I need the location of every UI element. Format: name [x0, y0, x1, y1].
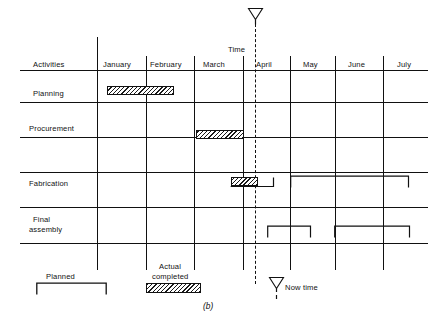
legend-label-actual-line2: completed	[152, 272, 188, 281]
header-month-may: May	[303, 60, 318, 69]
header-month-april: April	[256, 60, 272, 69]
grid-line-row-1	[20, 102, 428, 103]
header-month-february: February	[150, 60, 182, 69]
bracket-final-assembly-planned-2	[334, 225, 411, 239]
bracket-final-assembly-planned-1	[267, 225, 312, 239]
header-month-june: June	[348, 60, 365, 69]
header-month-july: July	[397, 60, 411, 69]
row-label-final-assembly-line1: Final	[33, 215, 50, 224]
bar-procurement-completed	[196, 130, 244, 139]
now-time-marker-top-icon	[247, 7, 264, 25]
grid-col-mar-apr	[243, 56, 244, 270]
header-activities: Activities	[33, 60, 64, 69]
figure-caption: (b)	[203, 301, 213, 311]
legend-label-actual-line1: Actual	[159, 262, 181, 271]
grid-col-feb-mar	[194, 56, 195, 270]
bar-planning-completed	[107, 86, 174, 95]
legend-marker-now-time-icon	[268, 276, 285, 300]
row-label-procurement: Procurement	[29, 124, 74, 133]
legend-label-planned: Planned	[46, 272, 75, 281]
grid-line-row-4	[20, 207, 428, 208]
header-month-march: March	[203, 60, 225, 69]
bracket-fabrication-planned	[290, 175, 410, 189]
row-label-planning: Planning	[33, 89, 64, 98]
legend-marker-actual-completed-bar	[146, 283, 201, 293]
legend-marker-planned-bracket	[36, 282, 108, 296]
row-label-fabrication: Fabrication	[29, 179, 68, 188]
gantt-chart: Activities Time January February March A…	[0, 0, 428, 319]
grid-col-activities-divider	[97, 37, 98, 270]
row-label-final-assembly-line2: assembly	[29, 225, 62, 234]
header-time-label: Time	[228, 45, 245, 54]
legend-label-now-time: Now time	[285, 283, 318, 292]
grid-line-header-bottom	[20, 70, 428, 71]
grid-line-row-3	[20, 172, 428, 173]
header-month-january: January	[103, 60, 131, 69]
bracket-fabrication-completed	[230, 173, 275, 189]
grid-line-bottom	[20, 243, 428, 244]
